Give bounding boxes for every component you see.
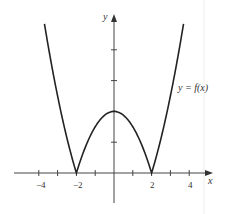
x-tick-label-neg2: −2 [73,180,83,190]
x-tick-label-2: 2 [150,180,155,190]
curve-label: y = f(x) [177,82,209,94]
y-axis-label: y [102,11,108,22]
y-axis: y [102,11,117,203]
x-axis-label: x [207,175,213,186]
x-tick-label-neg4: −4 [36,180,46,190]
y-axis-arrow-icon [111,14,117,22]
function-graph: −4 −2 2 4 x y y = f(x) [0,0,225,214]
x-tick-label-4: 4 [188,180,193,190]
